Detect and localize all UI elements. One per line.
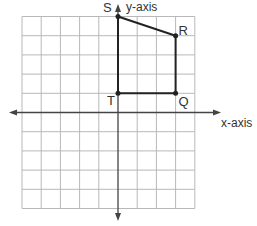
vertex-label-s: S: [103, 0, 112, 15]
axes: x-axis y-axis: [9, 0, 252, 221]
y-axis-arrow-down-icon: [115, 213, 121, 221]
vertex-label-r: R: [179, 23, 188, 38]
vertex-point-t: [116, 91, 121, 96]
y-axis-label: y-axis: [126, 0, 157, 14]
vertex-label-t: T: [107, 93, 115, 108]
vertex-point-q: [173, 91, 178, 96]
y-axis-arrow-up-icon: [115, 4, 121, 12]
vertex-label-q: Q: [179, 94, 189, 109]
x-axis-label: x-axis: [221, 116, 252, 130]
x-axis-arrow-right-icon: [213, 110, 221, 116]
x-axis-arrow-left-icon: [9, 110, 17, 116]
vertex-point-s: [116, 14, 121, 19]
vertex-point-r: [173, 33, 178, 38]
coordinate-grid-figure: x-axis y-axis SRQT: [0, 0, 257, 226]
